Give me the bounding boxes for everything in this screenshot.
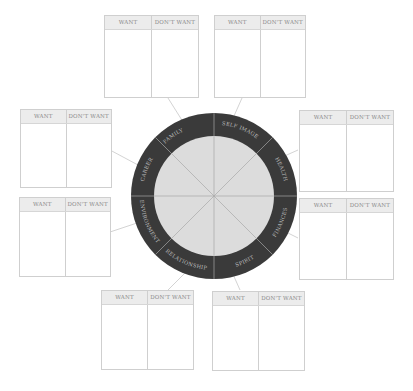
want-header: WANT [300, 199, 347, 212]
dont-want-header: DON'T WANT [66, 198, 111, 211]
want-column[interactable] [105, 30, 152, 97]
want-header: WANT [105, 16, 152, 29]
life-wheel: FAMILY SELF IMAGE HEALTH CAREER FINANCES… [0, 0, 413, 391]
dont-want-header: DON'T WANT [347, 111, 393, 124]
dont-want-column[interactable] [152, 30, 198, 97]
dont-want-header: DON'T WANT [347, 199, 393, 212]
dont-want-header: DON'T WANT [259, 292, 304, 305]
want-box-left-upper: WANTDON'T WANT [20, 109, 112, 188]
dont-want-column[interactable] [347, 213, 393, 279]
segment-dividers [131, 113, 297, 279]
want-box-right-lower: WANTDON'T WANT [299, 198, 394, 280]
want-header: WANT [21, 110, 67, 123]
want-box-top-right: WANTDON'T WANT [214, 15, 306, 98]
want-column[interactable] [20, 212, 66, 276]
want-box-bottom-left: WANTDON'T WANT [101, 290, 194, 370]
want-box-bottom-right: WANTDON'T WANT [212, 291, 305, 371]
dont-want-column[interactable] [67, 124, 112, 187]
want-column[interactable] [21, 124, 67, 187]
dont-want-header: DON'T WANT [261, 16, 306, 29]
dont-want-column[interactable] [261, 30, 306, 97]
dont-want-header: DON'T WANT [152, 16, 198, 29]
want-box-left-lower: WANTDON'T WANT [19, 197, 111, 277]
dont-want-header: DON'T WANT [148, 291, 193, 304]
dont-want-column[interactable] [148, 305, 193, 369]
want-header: WANT [300, 111, 347, 124]
want-column[interactable] [215, 30, 261, 97]
want-column[interactable] [300, 213, 347, 279]
want-box-top-left: WANTDON'T WANT [104, 15, 199, 98]
want-column[interactable] [300, 125, 347, 191]
dont-want-column[interactable] [259, 306, 304, 370]
want-column[interactable] [102, 305, 148, 369]
want-header: WANT [20, 198, 66, 211]
want-header: WANT [213, 292, 259, 305]
want-box-right-upper: WANTDON'T WANT [299, 110, 394, 192]
want-header: WANT [215, 16, 261, 29]
dont-want-header: DON'T WANT [67, 110, 112, 123]
dont-want-column[interactable] [347, 125, 393, 191]
want-header: WANT [102, 291, 148, 304]
dont-want-column[interactable] [66, 212, 111, 276]
want-column[interactable] [213, 306, 259, 370]
